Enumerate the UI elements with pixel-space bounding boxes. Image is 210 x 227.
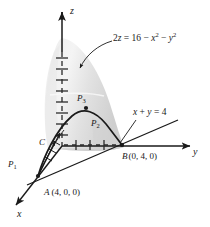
point-label-B: B(0, 4, 0)	[122, 152, 157, 161]
point-label-P3: P3	[77, 94, 86, 105]
plane-equation-label: x + y = 4	[133, 108, 166, 118]
y-axis-label: y	[193, 147, 197, 157]
z-axis-label: z	[70, 6, 74, 16]
x-axis-label: x	[17, 209, 21, 219]
point-label-P2: P2	[91, 119, 100, 130]
diagram-svg	[0, 0, 210, 227]
figure-canvas: z y x 2z = 16 − x2 − y2 x + y = 4 P3 P2 …	[0, 0, 210, 227]
curve-label-C: C	[39, 138, 45, 147]
point-label-P1: P1	[8, 160, 17, 171]
point-label-A: A(4, 0, 0)	[44, 188, 80, 197]
surface-equation-label: 2z = 16 − x2 − y2	[113, 32, 176, 43]
